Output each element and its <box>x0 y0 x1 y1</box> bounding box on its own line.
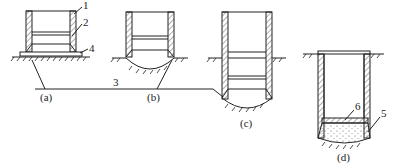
panel-a <box>11 7 90 89</box>
callout-4: 4 <box>89 42 95 54</box>
panel-label-c: (c) <box>240 117 253 130</box>
callout-2: 2 <box>83 16 89 28</box>
callout-1: 1 <box>83 0 89 11</box>
sinking-line-3 <box>35 89 223 97</box>
panel-label-a: (a) <box>40 91 53 104</box>
caisson-sinking-diagram: 1 2 3 4 5 6 (a) (b) (c) (d) <box>0 0 397 168</box>
callout-3: 3 <box>113 76 119 88</box>
callout-6: 6 <box>355 100 361 112</box>
panel-b <box>111 12 188 89</box>
panel-label-b: (b) <box>147 91 160 104</box>
panel-d <box>303 51 384 149</box>
panel-label-d: (d) <box>337 151 350 164</box>
diagram-svg: 1 2 3 4 5 6 (a) (b) (c) (d) <box>0 0 397 168</box>
panel-c <box>207 12 286 112</box>
callout-5: 5 <box>381 107 387 119</box>
